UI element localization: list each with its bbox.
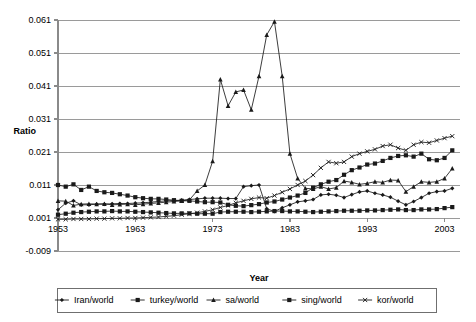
data-point-marker bbox=[419, 152, 423, 156]
data-point-marker bbox=[241, 88, 246, 93]
data-point-marker bbox=[56, 213, 60, 217]
data-point-marker bbox=[288, 187, 292, 191]
data-point-marker bbox=[288, 209, 292, 213]
x-axis-title: Year bbox=[249, 273, 269, 283]
data-point-marker bbox=[311, 197, 315, 201]
data-point-marker bbox=[388, 156, 392, 160]
data-point-marker bbox=[141, 210, 145, 214]
data-point-marker bbox=[280, 209, 284, 213]
data-point-marker bbox=[381, 193, 385, 197]
data-point-marker bbox=[427, 207, 431, 211]
data-point-marker bbox=[357, 209, 361, 213]
data-point-marker bbox=[218, 200, 222, 204]
data-point-marker bbox=[381, 159, 385, 163]
data-point-marker bbox=[303, 210, 307, 214]
data-point-marker bbox=[249, 210, 253, 214]
data-point-marker bbox=[210, 159, 215, 164]
data-point-marker bbox=[79, 188, 83, 192]
data-point-marker bbox=[226, 196, 230, 200]
data-point-marker bbox=[288, 195, 292, 199]
data-point-marker bbox=[265, 200, 269, 204]
data-point-marker bbox=[265, 209, 269, 213]
data-point-marker bbox=[257, 202, 261, 206]
data-point-marker bbox=[118, 192, 122, 196]
data-point-marker bbox=[272, 199, 276, 203]
x-tick-label: 1973 bbox=[203, 224, 223, 234]
data-point-marker bbox=[296, 209, 300, 213]
y-tick-label: 0.031 bbox=[28, 114, 51, 124]
data-point-marker bbox=[87, 210, 91, 214]
data-point-marker bbox=[435, 190, 439, 194]
data-point-marker bbox=[396, 199, 400, 203]
data-point-marker bbox=[427, 157, 431, 161]
series-kor-world bbox=[56, 134, 454, 221]
data-point-marker bbox=[280, 190, 284, 194]
data-point-marker bbox=[357, 190, 361, 194]
data-point-marker bbox=[280, 74, 285, 79]
data-point-marker bbox=[136, 298, 140, 302]
data-point-marker bbox=[342, 195, 346, 199]
chart-container: -0.0090.0010.0110.0210.0310.0410.0510.06… bbox=[0, 0, 476, 322]
data-point-marker bbox=[342, 173, 346, 177]
data-point-marker bbox=[241, 204, 245, 208]
data-point-marker bbox=[326, 192, 330, 196]
y-axis-title: Ratio bbox=[14, 126, 37, 136]
data-point-marker bbox=[218, 210, 222, 214]
data-point-marker bbox=[234, 196, 238, 200]
data-point-marker bbox=[412, 208, 416, 212]
data-point-marker bbox=[133, 210, 137, 214]
data-point-marker bbox=[303, 191, 307, 195]
data-point-marker bbox=[319, 166, 323, 170]
x-axis-tick-labels: 195319631973198319932003 bbox=[48, 218, 455, 234]
data-point-marker bbox=[280, 197, 284, 201]
data-point-marker bbox=[365, 208, 369, 212]
ratio-line-chart: -0.0090.0010.0110.0210.0310.0410.0510.06… bbox=[0, 0, 476, 322]
y-tick-label: 0.021 bbox=[28, 147, 51, 157]
legend-label: Iran/world bbox=[74, 295, 114, 305]
data-point-marker bbox=[365, 162, 369, 166]
data-point-marker bbox=[442, 206, 446, 210]
y-tick-label: 0.051 bbox=[28, 48, 51, 58]
data-point-marker bbox=[334, 193, 338, 197]
data-point-marker bbox=[388, 208, 392, 212]
data-point-marker bbox=[156, 211, 160, 215]
data-point-marker bbox=[404, 203, 408, 207]
data-point-marker bbox=[211, 212, 215, 216]
data-point-marker bbox=[396, 154, 400, 158]
data-point-marker bbox=[211, 196, 215, 200]
data-point-marker bbox=[264, 32, 269, 37]
data-point-marker bbox=[326, 180, 330, 184]
data-point-marker bbox=[218, 196, 222, 200]
legend-label: turkey/world bbox=[150, 295, 199, 305]
data-point-marker bbox=[435, 207, 439, 211]
data-point-marker bbox=[257, 183, 261, 187]
data-point-marker bbox=[350, 155, 354, 159]
data-point-marker bbox=[125, 193, 129, 197]
data-point-marker bbox=[288, 203, 292, 207]
series-sing-world bbox=[56, 205, 454, 217]
data-point-marker bbox=[350, 209, 354, 213]
data-point-marker bbox=[442, 156, 446, 160]
data-point-marker bbox=[211, 200, 215, 204]
y-tick-label: -0.009 bbox=[25, 246, 51, 256]
x-tick-label: 1953 bbox=[48, 224, 68, 234]
data-point-marker bbox=[365, 189, 369, 193]
y-tick-label: 0.041 bbox=[28, 81, 51, 91]
data-point-marker bbox=[435, 158, 439, 162]
data-point-marker bbox=[218, 77, 223, 82]
data-point-marker bbox=[156, 197, 160, 201]
data-point-marker bbox=[450, 205, 454, 209]
data-point-marker bbox=[234, 210, 238, 214]
data-point-marker bbox=[64, 212, 68, 216]
series-line bbox=[58, 22, 452, 206]
data-point-marker bbox=[296, 193, 300, 197]
data-point-marker bbox=[71, 211, 75, 215]
data-point-marker bbox=[87, 185, 91, 189]
y-tick-label: 0.061 bbox=[28, 15, 51, 25]
data-point-marker bbox=[334, 178, 338, 182]
data-point-marker bbox=[249, 184, 253, 188]
data-point-marker bbox=[404, 208, 408, 212]
data-point-marker bbox=[427, 191, 431, 195]
data-point-marker bbox=[373, 208, 377, 212]
data-point-marker bbox=[311, 173, 315, 177]
